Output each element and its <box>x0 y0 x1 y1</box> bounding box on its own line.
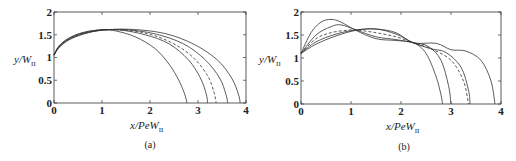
series-line <box>301 19 443 104</box>
chart-panel-a: 0 1 2 3 4 0 0.5 1 1.5 2 y/WII x/PeWII (a… <box>0 0 258 161</box>
x-tick-b-0: 0 <box>298 105 304 117</box>
curves-a <box>54 29 240 103</box>
x-axis-label-a: x/PeWII <box>129 119 164 134</box>
chart-a-svg: 0 1 2 3 4 0 0.5 1 1.5 2 y/WII x/PeWII (a… <box>0 0 258 161</box>
series-line <box>54 30 216 103</box>
x-tick-labels-b: 0 1 2 3 4 <box>298 105 504 117</box>
y-axis-label-a: y/WII <box>13 53 36 68</box>
x-tick-b-2: 2 <box>398 105 404 117</box>
y-axis-label-b: y/WII <box>258 53 281 68</box>
series-line <box>54 29 208 103</box>
caption-b: (b) <box>398 141 410 153</box>
y-tick-labels-b: 0 0.5 1 1.5 2 <box>285 6 299 110</box>
series-line <box>301 25 451 104</box>
y-tick-a-0: 0 <box>47 97 53 109</box>
y-tick-b-0: 0 <box>294 98 300 110</box>
plot-area-b <box>301 12 501 104</box>
y-tick-a-05: 0.5 <box>38 74 52 86</box>
y-tick-b-1: 1 <box>294 52 300 64</box>
caption-a: (a) <box>144 139 155 151</box>
x-tick-a-3: 3 <box>195 104 201 116</box>
x-tick-a-2: 2 <box>147 104 153 116</box>
x-axis-label-b: x/PeWII <box>385 120 420 135</box>
chart-panel-b: 0 1 2 3 4 0 0.5 1 1.5 2 y/WII x/PeWII (b… <box>258 0 516 161</box>
curves-b <box>301 19 495 104</box>
x-tick-b-3: 3 <box>448 105 454 117</box>
y-tick-a-2: 2 <box>47 6 53 18</box>
x-tick-labels-a: 0 1 2 3 4 <box>51 104 249 116</box>
x-tick-b-4: 4 <box>498 105 504 117</box>
x-tick-a-4: 4 <box>243 104 249 116</box>
series-line <box>54 29 228 103</box>
y-tick-a-1: 1 <box>47 51 53 63</box>
series-line <box>54 30 187 103</box>
y-tick-b-05: 0.5 <box>285 75 299 87</box>
chart-b-svg: 0 1 2 3 4 0 0.5 1 1.5 2 y/WII x/PeWII (b… <box>258 0 516 161</box>
axis-ticks-b <box>301 12 501 104</box>
y-tick-b-15: 1.5 <box>285 29 299 41</box>
x-tick-b-1: 1 <box>348 105 354 117</box>
plot-area-a <box>54 12 246 103</box>
x-tick-a-0: 0 <box>51 104 57 116</box>
series-line <box>54 29 240 103</box>
y-tick-labels-a: 0 0.5 1 1.5 2 <box>38 6 52 109</box>
x-tick-a-1: 1 <box>99 104 105 116</box>
y-tick-b-2: 2 <box>294 6 300 18</box>
y-tick-a-15: 1.5 <box>38 29 52 41</box>
axis-ticks-a <box>54 12 246 103</box>
